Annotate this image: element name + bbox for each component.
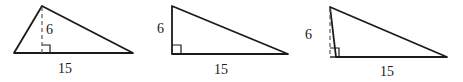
- triangle-2-height-label: 6: [157, 22, 164, 36]
- triangle-1-group: [14, 6, 133, 53]
- triangle-3-outline: [330, 7, 447, 57]
- triangle-3-base-label: 15: [380, 65, 394, 79]
- triangle-1-height-label: 6: [46, 23, 53, 37]
- triangle-2-right-angle-marker: [172, 45, 181, 54]
- triangle-1-right-angle-marker: [42, 45, 50, 53]
- triangle-1-outline: [14, 6, 133, 53]
- triangle-3-height-label: 6: [305, 28, 312, 42]
- triangles-figure: 6 15 6 15 6 15: [0, 0, 463, 82]
- triangle-2-group: [172, 6, 288, 54]
- triangle-2-base-label: 15: [214, 63, 228, 77]
- triangle-1-base-label: 15: [58, 62, 72, 76]
- triangle-3-group: [330, 7, 447, 57]
- triangle-2-outline: [172, 6, 288, 54]
